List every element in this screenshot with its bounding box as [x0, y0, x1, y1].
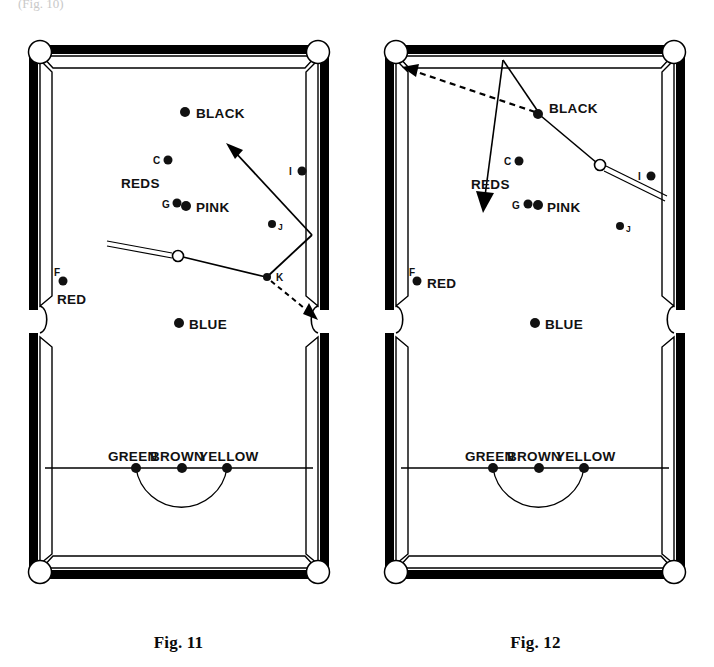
ball-red-i — [647, 172, 656, 181]
top-cushion-face — [398, 56, 672, 68]
label-red-f: F — [54, 267, 60, 278]
cue-stick-edge-top — [107, 241, 172, 253]
d-arc — [136, 468, 227, 507]
cue-stick-edge-bottom — [604, 171, 665, 201]
label-red-f: F — [409, 267, 415, 278]
label-red-i: I — [638, 171, 641, 182]
ball-brown — [177, 463, 187, 473]
figure-caption-fig11: Fig. 11 — [0, 633, 357, 653]
left-rail-lower — [29, 333, 38, 568]
label-red-f-name: RED — [57, 292, 86, 307]
ball-blue — [530, 318, 540, 328]
figure-caption-fig12: Fig. 12 — [357, 633, 714, 653]
label-pink: PINK — [547, 200, 580, 215]
pocket-top-left — [29, 41, 52, 64]
right-rail-upper — [676, 57, 685, 310]
ball-blue — [174, 318, 184, 328]
right-cushion-lower-face — [306, 337, 318, 564]
pocket-bottom-right — [307, 561, 330, 584]
cue-travel-arrowhead — [476, 191, 494, 213]
bottom-rail — [40, 570, 318, 579]
ball-red-j — [616, 222, 624, 230]
label-black: BLACK — [196, 106, 245, 121]
left-rail-upper — [29, 57, 38, 310]
cue-stick — [107, 241, 172, 258]
bottom-cushion-face — [42, 556, 316, 568]
ball-yellow — [579, 463, 589, 473]
ball-red-i — [298, 167, 307, 176]
ball-labels: BLACK C G PINK I J F RED BLUE REDS K GRE… — [54, 106, 292, 464]
pocket-dashed-line — [271, 281, 309, 312]
label-yellow: YELLOW — [199, 449, 259, 464]
ball-black — [180, 107, 190, 117]
table-frame — [29, 41, 330, 584]
pocket-bottom-right — [663, 561, 686, 584]
cue-to-object-line — [183, 257, 266, 277]
label-red-j: J — [626, 224, 631, 234]
left-cushion-upper-face — [40, 60, 52, 306]
ball-red-j — [268, 220, 276, 228]
black-to-pocket-dashed-line — [414, 71, 535, 112]
right-rail-lower — [676, 333, 685, 568]
ball-brown — [534, 463, 544, 473]
label-reds-cluster: REDS — [121, 176, 160, 191]
label-red-c: C — [504, 156, 511, 167]
balls-group — [59, 107, 307, 473]
fig12-table-svg: BLACK C G PINK I J F RED BLUE REDS GREEN… — [357, 0, 714, 600]
label-brown: BROWN — [507, 449, 561, 464]
cue-stick — [604, 166, 667, 201]
label-red-g: G — [512, 200, 520, 211]
label-blue: BLUE — [189, 317, 227, 332]
right-cushion-lower-face — [662, 337, 674, 564]
figure-fig11: BLACK C G PINK I J F RED BLUE REDS K GRE… — [0, 0, 357, 667]
left-cushion-lower-face — [396, 337, 408, 564]
ball-black — [533, 109, 543, 119]
ball-labels: BLACK C G PINK I J F RED BLUE REDS GREEN… — [409, 101, 641, 464]
right-cushion-upper-face — [662, 60, 674, 306]
baulk-markings — [45, 468, 313, 507]
pocket-middle-left — [40, 306, 47, 333]
cue-to-black-line — [541, 116, 597, 163]
fig11-table-svg: BLACK C G PINK I J F RED BLUE REDS K GRE… — [0, 0, 357, 600]
baulk-markings — [401, 468, 669, 507]
label-contact-k: K — [276, 272, 284, 283]
pocket-top-right — [663, 41, 686, 64]
left-rail-lower — [385, 333, 394, 568]
right-rail-upper — [320, 57, 329, 310]
ball-red-g — [173, 199, 182, 208]
pocket-bottom-left — [29, 561, 52, 584]
ball-green — [131, 463, 141, 473]
contact-point-k — [263, 273, 271, 281]
label-red-c: C — [153, 155, 160, 166]
pocket-middle-left — [396, 306, 403, 333]
label-reds-cluster: REDS — [471, 177, 510, 192]
snooker-diagram-figure-pair: (Fig. 10) — [0, 0, 714, 667]
d-arc — [493, 468, 584, 507]
pocket-top-left — [385, 41, 408, 64]
ball-red-g — [524, 200, 533, 209]
ball-yellow — [222, 463, 232, 473]
balls-group — [413, 109, 656, 473]
right-rail-lower — [320, 333, 329, 568]
ball-pink — [533, 200, 543, 210]
label-brown: BROWN — [150, 449, 204, 464]
label-black: BLACK — [549, 101, 598, 116]
top-rail — [396, 45, 674, 54]
ball-red-c — [164, 156, 173, 165]
left-rail-upper — [385, 57, 394, 310]
label-blue: BLUE — [545, 317, 583, 332]
left-cushion-upper-face — [396, 60, 408, 306]
pocket-top-right — [307, 41, 330, 64]
rebound-arrowhead — [226, 143, 243, 159]
label-red-g: G — [162, 199, 170, 210]
bottom-rail — [396, 570, 674, 579]
top-cushion-face — [42, 56, 316, 68]
cue-ball — [173, 251, 184, 262]
pocket-middle-right — [667, 306, 674, 333]
table-frame — [385, 41, 686, 584]
label-pink: PINK — [196, 200, 229, 215]
cue-ball — [595, 160, 606, 171]
ball-pink — [181, 201, 191, 211]
cue-stick-edge-bottom — [107, 246, 172, 258]
label-red-f-name: RED — [427, 276, 456, 291]
